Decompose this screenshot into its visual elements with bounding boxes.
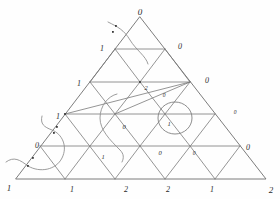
vertex-label-interior-4-2: 0 bbox=[158, 150, 161, 157]
grid-diag-l-7 bbox=[90, 49, 115, 82]
extra-diagonal bbox=[65, 82, 190, 114]
marked-points bbox=[27, 25, 141, 167]
vertex-label-interior-4-1: 1 bbox=[101, 154, 104, 161]
circle-highlight bbox=[158, 102, 192, 134]
outer-triangle bbox=[16, 17, 266, 179]
curve-top bbox=[108, 22, 148, 64]
vertex-label-right-3: 0 bbox=[234, 110, 237, 116]
vertex-label-interior-4-3: 0 bbox=[193, 151, 196, 157]
vertex-label-circled-1: 1 bbox=[167, 121, 170, 128]
grid-diag-r-4 bbox=[40, 146, 65, 179]
grid-diag-l-6 bbox=[65, 146, 90, 179]
grid-diag-l-4 bbox=[215, 146, 240, 179]
vertex-label-interior-2-1: 2 bbox=[144, 85, 147, 92]
vertex-label-left-1: 1 bbox=[100, 45, 104, 53]
marked-point bbox=[112, 31, 114, 33]
vertex-label-apex: 0 bbox=[138, 8, 143, 17]
vertex-dot bbox=[139, 81, 141, 83]
vertex-label-bottom-2: 2 bbox=[124, 186, 128, 194]
marked-point bbox=[53, 132, 55, 134]
vertex-label-bottom-right-corner: 2 bbox=[269, 186, 274, 195]
grid-diag-r-1 bbox=[115, 49, 140, 82]
vertex-label-bottom-1: 1 bbox=[70, 186, 74, 194]
vertex-label-right-4: 0 bbox=[246, 144, 250, 152]
marked-point bbox=[56, 126, 58, 128]
marked-point bbox=[115, 25, 117, 27]
vertex-label-bottom-3: 2 bbox=[166, 186, 170, 194]
circle-highlight-1 bbox=[158, 102, 192, 134]
path-curves bbox=[6, 22, 148, 170]
vertex-label-left-2: 1 bbox=[77, 80, 81, 88]
vertex-label-left-3: 1 bbox=[56, 113, 60, 121]
grid-diag-l-1 bbox=[140, 49, 165, 82]
vertex-label-interior-3-1: 0 bbox=[122, 124, 125, 131]
vertex-label-bottom-left-corner: 1 bbox=[7, 184, 12, 193]
vertex-label-interior-2-2: 0 bbox=[163, 93, 166, 99]
vertex-label-left-4: 0 bbox=[35, 142, 39, 150]
vertex-dot bbox=[64, 113, 66, 115]
vertex-label-right-1: 0 bbox=[178, 43, 182, 51]
figure-canvas: 0 1 0 1 2 0 0 1 0 1 0 0 1 0 0 0 1 1 2 2 … bbox=[0, 0, 280, 199]
triangulation-svg bbox=[0, 0, 280, 199]
vertex-label-bottom-4: 1 bbox=[210, 186, 214, 194]
grid-diag-r-7 bbox=[165, 49, 190, 82]
vertex-label-right-2: 0 bbox=[205, 77, 209, 85]
grid-lines bbox=[16, 17, 266, 179]
marked-point bbox=[27, 165, 29, 167]
grid-diag-l-2b bbox=[115, 146, 140, 179]
marked-point bbox=[32, 157, 34, 159]
